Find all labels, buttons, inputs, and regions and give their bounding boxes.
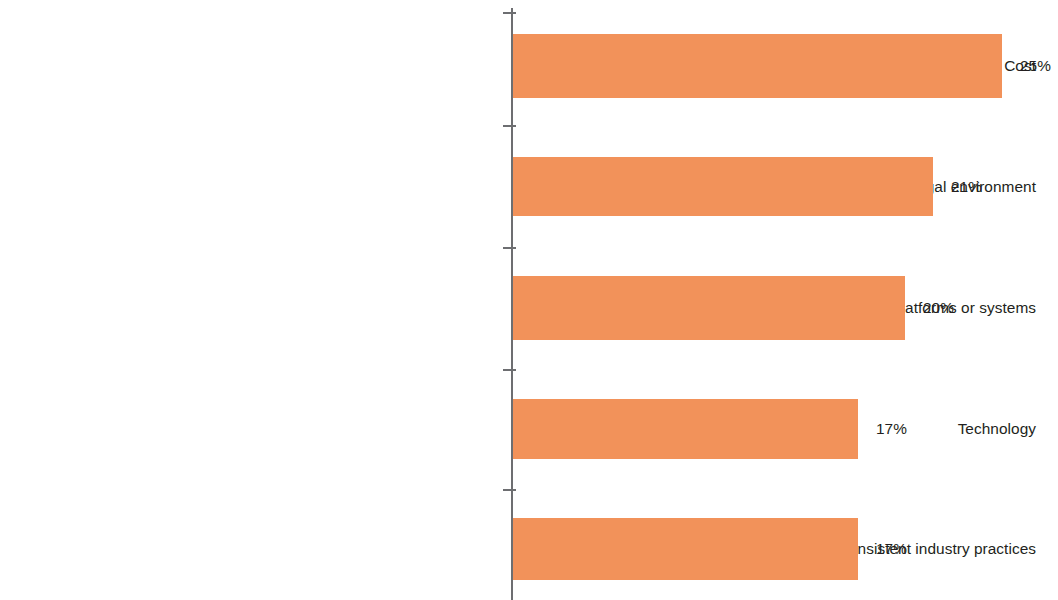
bar-row: Inconsistent industry practices 17% xyxy=(0,518,1058,580)
bar[interactable] xyxy=(513,518,858,580)
bar-row: Lack of interoperability of existing pla… xyxy=(0,276,1058,340)
bar[interactable] xyxy=(513,157,933,216)
plot-area: Cost 25% Legal environment 21% Lack of i… xyxy=(0,0,1058,600)
bar[interactable] xyxy=(513,34,1002,98)
value-label: 21% xyxy=(951,178,982,196)
value-label: 25% xyxy=(1020,57,1051,75)
bar-row: Cost 25% xyxy=(0,34,1058,98)
axis-tick xyxy=(503,369,516,371)
bar-row: Legal environment 21% xyxy=(0,157,1058,216)
value-label: 17% xyxy=(876,420,907,438)
axis-tick xyxy=(503,247,516,249)
bar[interactable] xyxy=(513,276,905,340)
bar[interactable] xyxy=(513,399,858,459)
bar-chart: Cost 25% Legal environment 21% Lack of i… xyxy=(0,0,1058,600)
value-label: 17% xyxy=(876,540,907,558)
bar-row: Technology 17% xyxy=(0,399,1058,459)
axis-tick xyxy=(503,125,516,127)
axis-tick xyxy=(503,489,516,491)
axis-tick xyxy=(503,12,516,14)
value-label: 20% xyxy=(923,299,954,317)
